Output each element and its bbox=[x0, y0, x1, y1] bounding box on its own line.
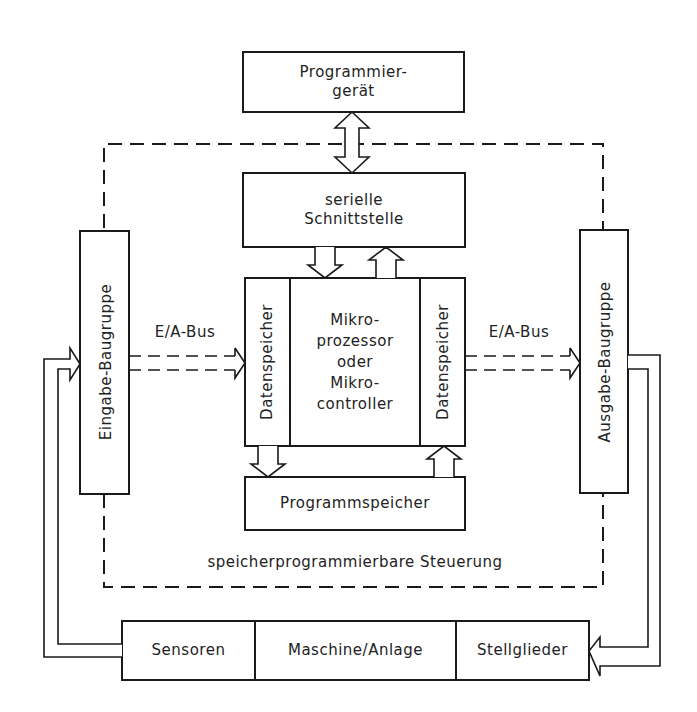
label-programmiergeraet: Programmier- gerät bbox=[243, 52, 464, 112]
arrow-down-prog bbox=[251, 446, 285, 477]
label-maschine-anlage: Maschine/Anlage bbox=[255, 621, 456, 680]
label-mikroprozessor: Mikro- prozessor oder Mikro- controller bbox=[290, 278, 420, 446]
label-eingabe-baugruppe: Eingabe-Baugruppe bbox=[94, 231, 118, 494]
label-stellglieder: Stellglieder bbox=[456, 621, 589, 680]
bus-right-head bbox=[570, 348, 580, 378]
arrow-down-serial bbox=[308, 247, 342, 278]
label-programmspeicher: Programmspeicher bbox=[245, 477, 465, 530]
label-sensoren: Sensoren bbox=[122, 621, 255, 680]
label-serielle-schnittstelle: serielle Schnittstelle bbox=[243, 173, 465, 247]
label-bus-right: E/A-Bus bbox=[464, 320, 574, 344]
label-datenspeicher-right: Datenspeicher bbox=[431, 278, 455, 446]
label-datenspeicher-left: Datenspeicher bbox=[255, 278, 279, 446]
bus-right-lines bbox=[465, 356, 570, 370]
label-ausgabe-baugruppe: Ausgabe-Baugruppe bbox=[593, 231, 617, 494]
double-arrow-programmier bbox=[335, 112, 369, 173]
label-bus-left: E/A-Bus bbox=[130, 320, 240, 344]
arrow-up-serial bbox=[369, 247, 403, 278]
bus-left-head bbox=[235, 348, 245, 378]
bus-left-lines bbox=[129, 356, 235, 370]
arrow-up-prog bbox=[427, 446, 461, 477]
label-sps-frame: speicherprogrammierbare Steuerung bbox=[130, 550, 580, 574]
